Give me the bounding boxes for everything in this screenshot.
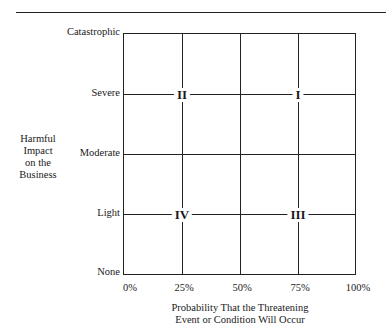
y-tick-catastrophic: Catastrophic (10, 26, 120, 38)
top-rule (16, 12, 386, 13)
y-tick-severe: Severe (10, 87, 120, 99)
y-title-line: Impact (8, 145, 68, 157)
x-tick-100: 100% (338, 282, 378, 293)
x-tick-0: 0% (110, 282, 150, 293)
x-title-line: Probability That the Threatening (140, 302, 340, 314)
y-title-line: Business (8, 169, 68, 181)
gridline-moderate (123, 154, 356, 155)
y-title-line: on the (8, 157, 68, 169)
quadrant-iii-label: III (287, 208, 308, 222)
x-axis-title: Probability That the Threatening Event o… (140, 302, 340, 326)
y-tick-light: Light (10, 207, 120, 219)
quadrant-i-label: I (292, 88, 303, 102)
quadrant-ii-label: II (174, 88, 190, 102)
y-tick-none: None (10, 266, 120, 278)
quadrant-iv-label: IV (172, 208, 192, 222)
y-title-line: Harmful (8, 133, 68, 145)
x-tick-50: 50% (222, 282, 262, 293)
x-title-line: Event or Condition Will Occur (140, 314, 340, 326)
x-tick-75: 75% (280, 282, 320, 293)
x-tick-25: 25% (164, 282, 204, 293)
y-axis-title: Harmful Impact on the Business (8, 133, 68, 181)
gridline-severe (123, 94, 356, 95)
gridline-light (123, 214, 356, 215)
